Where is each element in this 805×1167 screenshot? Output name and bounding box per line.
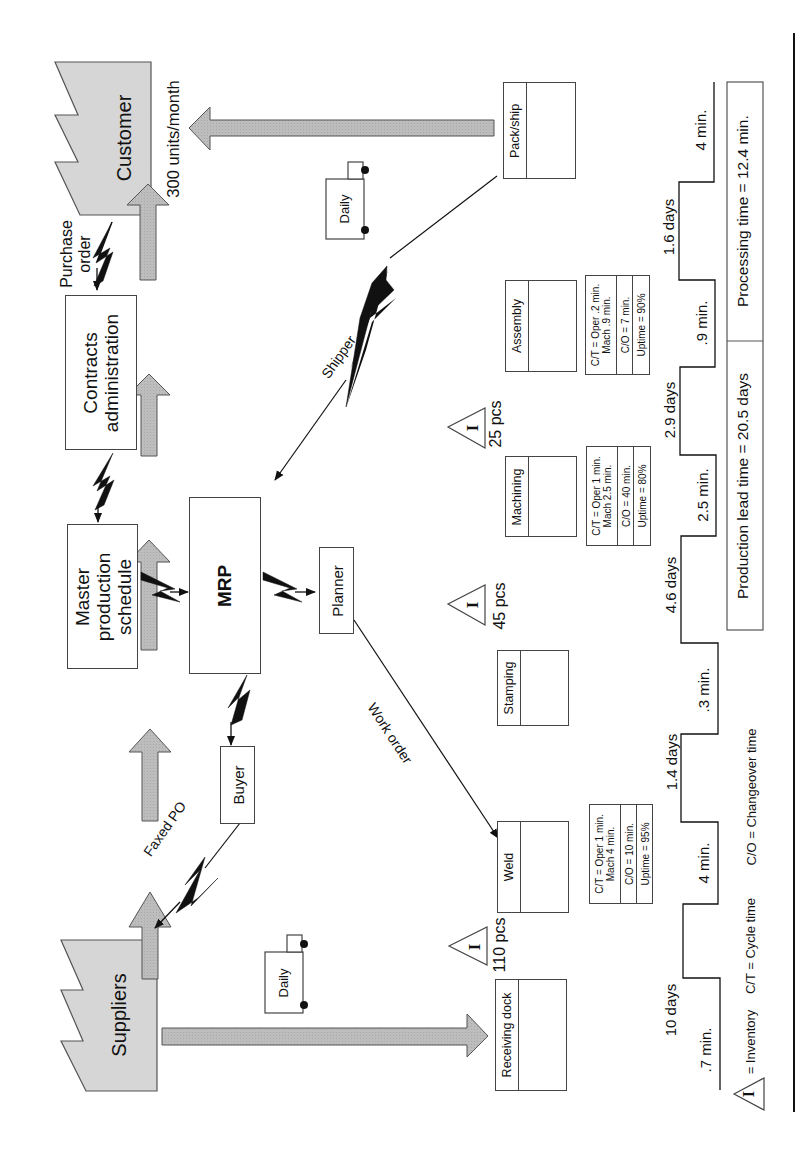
- timeline-ladder: [679, 82, 720, 1090]
- processing-time: Processing time = 12.4 min.: [734, 117, 756, 307]
- inventory-symbol: I: [463, 595, 483, 615]
- process-time: 4 min.: [695, 828, 715, 898]
- purchase-order-label-line1: Purchase: [58, 217, 76, 291]
- process-time: .7 min.: [697, 1015, 717, 1085]
- process-name: Weld: [502, 853, 516, 881]
- process-time: 4 min.: [692, 95, 712, 165]
- process-name: Assembly: [510, 299, 524, 353]
- wait-time: 2.9 days: [661, 370, 681, 450]
- buyer-box: Buyer: [220, 746, 255, 824]
- buyer-label: Buyer: [229, 765, 246, 804]
- suppliers-label: Suppliers: [108, 955, 132, 1075]
- inventory-symbol: I: [465, 937, 485, 957]
- contracts-administration-box: Contracts administration: [65, 295, 137, 450]
- customer-truck-label: Daily: [337, 184, 355, 234]
- process-time: .3 min.: [695, 655, 715, 725]
- machining-data-box: C/T = Oper 1 min.Mach 2.5 min. C/O = 40 …: [586, 446, 651, 546]
- wait-time: 1.6 days: [660, 187, 680, 267]
- inventory-symbol: I: [463, 418, 483, 438]
- legend-inventory-symbol: I: [740, 1084, 760, 1104]
- process-name: Stamping: [502, 662, 516, 715]
- supplier-truck-label: Daily: [276, 958, 294, 1008]
- process-name: Pack/ship: [508, 103, 522, 157]
- planner-box: Planner: [319, 547, 354, 634]
- assembly-data-box: C/T = Oper .2 min.Mach .9 min. C/O = 7 m…: [585, 275, 650, 375]
- weld-data-box: C/T = Oper 1 min.Mach 4 min. C/O = 10 mi…: [589, 804, 653, 904]
- inventory-qty: 110 pcs: [491, 900, 511, 990]
- contracts-line1: Contracts: [80, 313, 101, 431]
- process-name: Machining: [510, 468, 524, 525]
- inventory-qty: 25 pcs: [487, 384, 507, 464]
- purchase-order-label-line2: order: [76, 217, 94, 291]
- process-time: 2.5 min.: [694, 460, 714, 530]
- legend-cycle-time: C/T = Cycle time: [743, 896, 761, 996]
- mps-line3: schedule: [113, 552, 134, 641]
- legend-changeover-time: C/O = Changeover time: [744, 724, 762, 870]
- customer-label: Customer: [113, 63, 137, 213]
- wait-time: 4.6 days: [662, 545, 682, 625]
- mrp-box: MRP: [189, 497, 261, 674]
- supplier-to-receiving-arrow: [162, 1014, 488, 1057]
- process-machining: Machining: [505, 456, 577, 537]
- mrp-label: MRP: [214, 564, 236, 606]
- weld-to-stamping-arrow: [129, 729, 171, 821]
- wait-time: 1.4 days: [663, 722, 683, 802]
- customer-demand: 300 units/month: [164, 64, 186, 214]
- inventory-qty: 45 pcs: [491, 566, 511, 646]
- planner-to-weld-work-order-arrow: [354, 620, 498, 838]
- contracts-line2: administration: [101, 313, 122, 431]
- master-production-schedule-box: Master production schedule: [67, 524, 138, 669]
- production-lead-time: Production lead time = 20.5 days: [734, 366, 756, 606]
- process-pack-ship: Pack/ship: [503, 82, 576, 179]
- planner-label: Planner: [328, 565, 345, 617]
- packship-to-customer-arrow: [189, 107, 494, 150]
- mps-line2: production: [92, 552, 113, 641]
- mps-line1: Master: [71, 552, 92, 641]
- process-assembly: Assembly: [505, 280, 577, 372]
- value-stream-map-final: .r { position:absolute; transform: rotat…: [0, 0, 805, 1167]
- wait-time: 10 days: [662, 970, 682, 1050]
- legend-inventory: = Inventory: [743, 1000, 761, 1084]
- process-stamping: Stamping: [497, 650, 569, 726]
- process-name: Receiving dock: [500, 993, 514, 1078]
- process-receiving-dock: Receiving dock: [495, 979, 567, 1091]
- process-time: .9 min.: [693, 288, 713, 358]
